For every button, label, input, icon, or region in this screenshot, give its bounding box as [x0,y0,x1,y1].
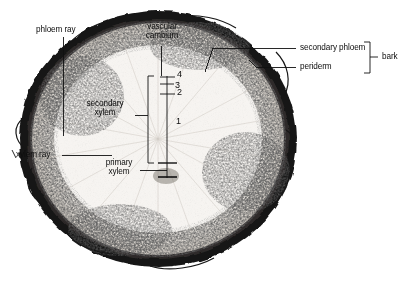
ring-number-4: 4 [177,70,182,79]
label-primary-xylem: primaryxylem [92,158,146,177]
label-bark: bark [382,52,398,61]
label-secondary-phloem: secondary phloem [300,43,365,52]
label-secondary-xylem: secondaryxylem [76,99,134,118]
label-periderm: periderm [300,62,332,71]
label-phloem-ray: phloem ray [36,25,76,34]
label-vascular-cambium: vascularcambium [133,22,191,41]
ring-number-2: 2 [177,88,182,97]
ring-number-1: 1 [176,117,181,126]
label-xylem-ray: xylem ray [16,150,50,159]
